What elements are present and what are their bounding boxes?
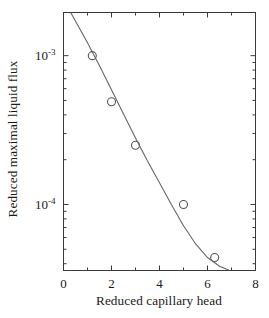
y-tick-mantissa: 10 (35, 197, 48, 212)
y-tick-exponent: -3 (48, 47, 56, 57)
x-tick-label: 2 (108, 276, 115, 291)
y-tick-mantissa: 10 (35, 48, 48, 63)
x-tick-label: 4 (156, 276, 163, 291)
data-point-marker (180, 200, 188, 208)
y-tick-label: 10-3 (35, 47, 56, 63)
figure-container: Reduced maximal liquid flux 0246810-310-… (0, 0, 269, 318)
plot-area: 0246810-310-4 (0, 0, 269, 318)
x-tick-label: 0 (60, 276, 67, 291)
fitted-curve (71, 13, 229, 271)
y-tick-label: 10-4 (35, 196, 56, 212)
x-tick-label: 8 (252, 276, 259, 291)
x-axis-title-container: Reduced capillary head (63, 291, 255, 309)
x-tick-label: 6 (204, 276, 211, 291)
data-point-marker (108, 98, 116, 106)
y-tick-exponent: -4 (48, 196, 56, 206)
x-axis-title: Reduced capillary head (96, 293, 222, 308)
